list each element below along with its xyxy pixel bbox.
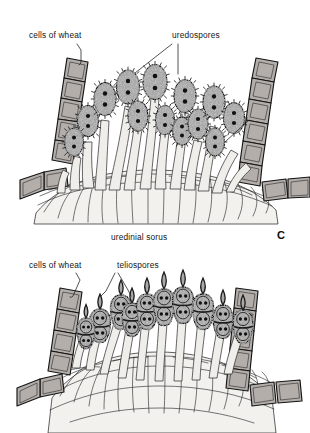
label-teliospores: teliospores <box>117 260 159 270</box>
label-cells-of-wheat-telial: cells of wheat <box>29 260 82 270</box>
uredospore <box>203 125 227 158</box>
label-cells-of-wheat-uredinial: cells of wheat <box>29 30 82 40</box>
caption-uredinial-sorus: uredinial sorus <box>111 232 167 242</box>
label-uredospores: uredospores <box>172 30 220 40</box>
rust-fungus-diagram: cells of wheat uredospores uredinial sor… <box>0 0 310 433</box>
uredospore <box>62 125 86 158</box>
figure-root: cells of wheat uredospores uredinial sor… <box>0 0 310 433</box>
panel-label-c: C <box>277 229 285 241</box>
uredospore <box>125 98 150 134</box>
